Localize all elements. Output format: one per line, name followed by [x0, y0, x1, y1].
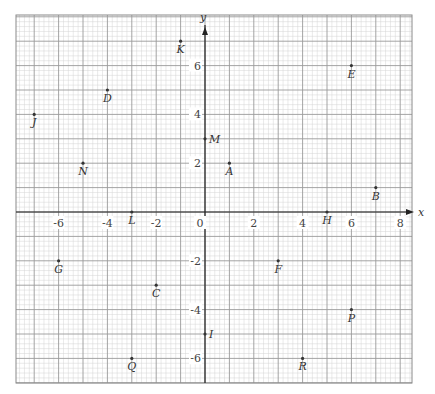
point-d: D — [102, 88, 112, 105]
point-label: N — [77, 165, 88, 178]
point-label: R — [297, 360, 306, 373]
point-label: I — [208, 328, 214, 341]
point-a: A — [224, 162, 233, 179]
point-q: Q — [127, 357, 136, 374]
y-tick-label: -2 — [190, 255, 201, 268]
point-e: E — [346, 64, 355, 81]
point-h: H — [321, 210, 332, 227]
point-label: P — [347, 312, 356, 325]
y-tick-label: 6 — [194, 60, 201, 73]
point-p: P — [347, 308, 356, 325]
point-label: Q — [127, 360, 136, 373]
y-tick-label: 4 — [194, 108, 201, 121]
point-marker-icon — [203, 137, 206, 140]
y-tick-label: -6 — [190, 352, 201, 365]
point-label: M — [208, 133, 221, 146]
point-label: E — [346, 68, 355, 81]
y-tick-label: -4 — [190, 304, 201, 317]
point-j: J — [30, 113, 37, 130]
point-label: F — [273, 263, 282, 276]
point-label: G — [54, 263, 63, 276]
x-tick-label: -6 — [53, 217, 64, 230]
x-tick-label: 6 — [348, 217, 355, 230]
x-tick-label: -2 — [151, 217, 162, 230]
point-label: D — [102, 92, 112, 105]
point-label: L — [127, 214, 135, 227]
point-l: L — [127, 210, 135, 227]
point-k: K — [175, 40, 185, 57]
point-marker-icon — [203, 332, 206, 335]
point-g: G — [54, 259, 63, 276]
y-axis-label: y — [199, 11, 207, 24]
point-label: A — [224, 165, 233, 178]
x-tick-label: 4 — [299, 217, 306, 230]
x-tick-label: 2 — [250, 217, 257, 230]
y-tick-label: 2 — [194, 157, 201, 170]
x-tick-label: 8 — [397, 217, 404, 230]
point-n: N — [77, 162, 88, 179]
point-f: F — [273, 259, 282, 276]
point-label: H — [321, 214, 332, 227]
x-axis-label: x — [418, 206, 425, 219]
y-axis-arrow-icon — [202, 27, 208, 35]
x-tick-label: -4 — [102, 217, 113, 230]
axes: xy — [16, 11, 425, 383]
coordinate-grid-chart: xy -6-4-202468-6-4-2246 ABCDEFGHIJKLMNPQ… — [0, 0, 435, 394]
point-c: C — [152, 284, 161, 301]
point-r: R — [297, 357, 306, 374]
point-label: J — [30, 116, 37, 129]
x-tick-label: 0 — [197, 217, 204, 230]
point-b: B — [371, 186, 380, 203]
point-label: B — [371, 190, 380, 203]
point-label: C — [152, 287, 161, 300]
point-label: K — [175, 43, 185, 56]
